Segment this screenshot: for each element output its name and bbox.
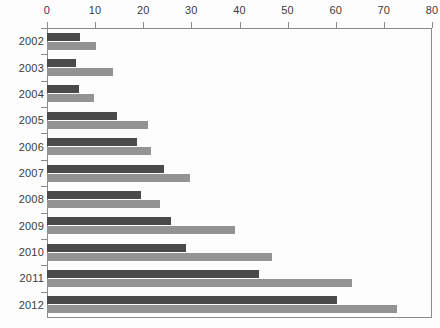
x-axis-tick [240,22,241,28]
y-axis-category-label-2005: 2005 [19,114,44,126]
bar-2011-series-2 [47,279,352,287]
y-axis-tick [41,107,47,108]
x-axis-tick-label: 20 [137,4,150,16]
bar-2003-series-2 [47,68,113,76]
bar-2008-series-2 [47,200,160,208]
bar-2002-series-1 [47,33,80,41]
bar-2004-series-2 [47,94,94,102]
x-axis-tick [432,22,433,28]
bar-chart: 01020304050607080 2002200320042005200620… [0,0,440,328]
x-axis-tick [143,22,144,28]
y-axis-tick [41,239,47,240]
bar-2011-series-1 [47,270,259,278]
y-axis-tick [41,54,47,55]
bar-2004-series-1 [47,85,79,93]
x-axis-tick [384,22,385,28]
x-axis-tick [191,22,192,28]
bar-2012-series-2 [47,305,397,313]
x-axis-tick-label: 10 [89,4,102,16]
y-axis-category-label-2010: 2010 [19,246,44,258]
y-axis-category-label-2004: 2004 [19,88,44,100]
y-axis-category-label-2008: 2008 [19,193,44,205]
x-axis-tick-label: 40 [233,4,246,16]
y-axis-category-label-2007: 2007 [19,167,44,179]
y-axis-category-label-2003: 2003 [19,62,44,74]
x-axis-tick-label: 70 [378,4,391,16]
bar-2005-series-1 [47,112,117,120]
x-axis-tick [47,22,48,28]
y-axis-category-label-2009: 2009 [19,220,44,232]
y-axis-category-label-2012: 2012 [19,299,44,311]
y-axis-tick [41,213,47,214]
y-axis-category-label-2006: 2006 [19,141,44,153]
x-axis-tick-label: 60 [329,4,342,16]
bar-2007-series-2 [47,174,190,182]
y-axis-tick [41,265,47,266]
x-axis-tick-label: 0 [44,4,50,16]
x-axis-tick [95,22,96,28]
x-axis-tick-label: 80 [426,4,439,16]
y-axis-tick [41,28,47,29]
bar-2009-series-2 [47,226,235,234]
bar-2012-series-1 [47,296,337,304]
bar-2008-series-1 [47,191,141,199]
bar-2003-series-1 [47,59,76,67]
y-axis-category-label-2002: 2002 [19,35,44,47]
x-axis-tick-label: 30 [185,4,198,16]
bar-2009-series-1 [47,217,171,225]
bar-2007-series-1 [47,165,164,173]
bar-2005-series-2 [47,121,148,129]
x-axis-tick [288,22,289,28]
bar-2006-series-2 [47,147,151,155]
x-axis-tick [336,22,337,28]
x-axis-tick-label: 50 [281,4,294,16]
bar-2006-series-1 [47,138,137,146]
bar-2010-series-2 [47,253,272,261]
y-axis-tick [41,81,47,82]
y-axis-category-label-2011: 2011 [20,272,44,284]
y-axis-tick [41,133,47,134]
bar-2002-series-2 [47,42,96,50]
y-axis-tick [41,160,47,161]
y-axis-tick [41,186,47,187]
y-axis-tick [41,292,47,293]
bar-2010-series-1 [47,244,186,252]
